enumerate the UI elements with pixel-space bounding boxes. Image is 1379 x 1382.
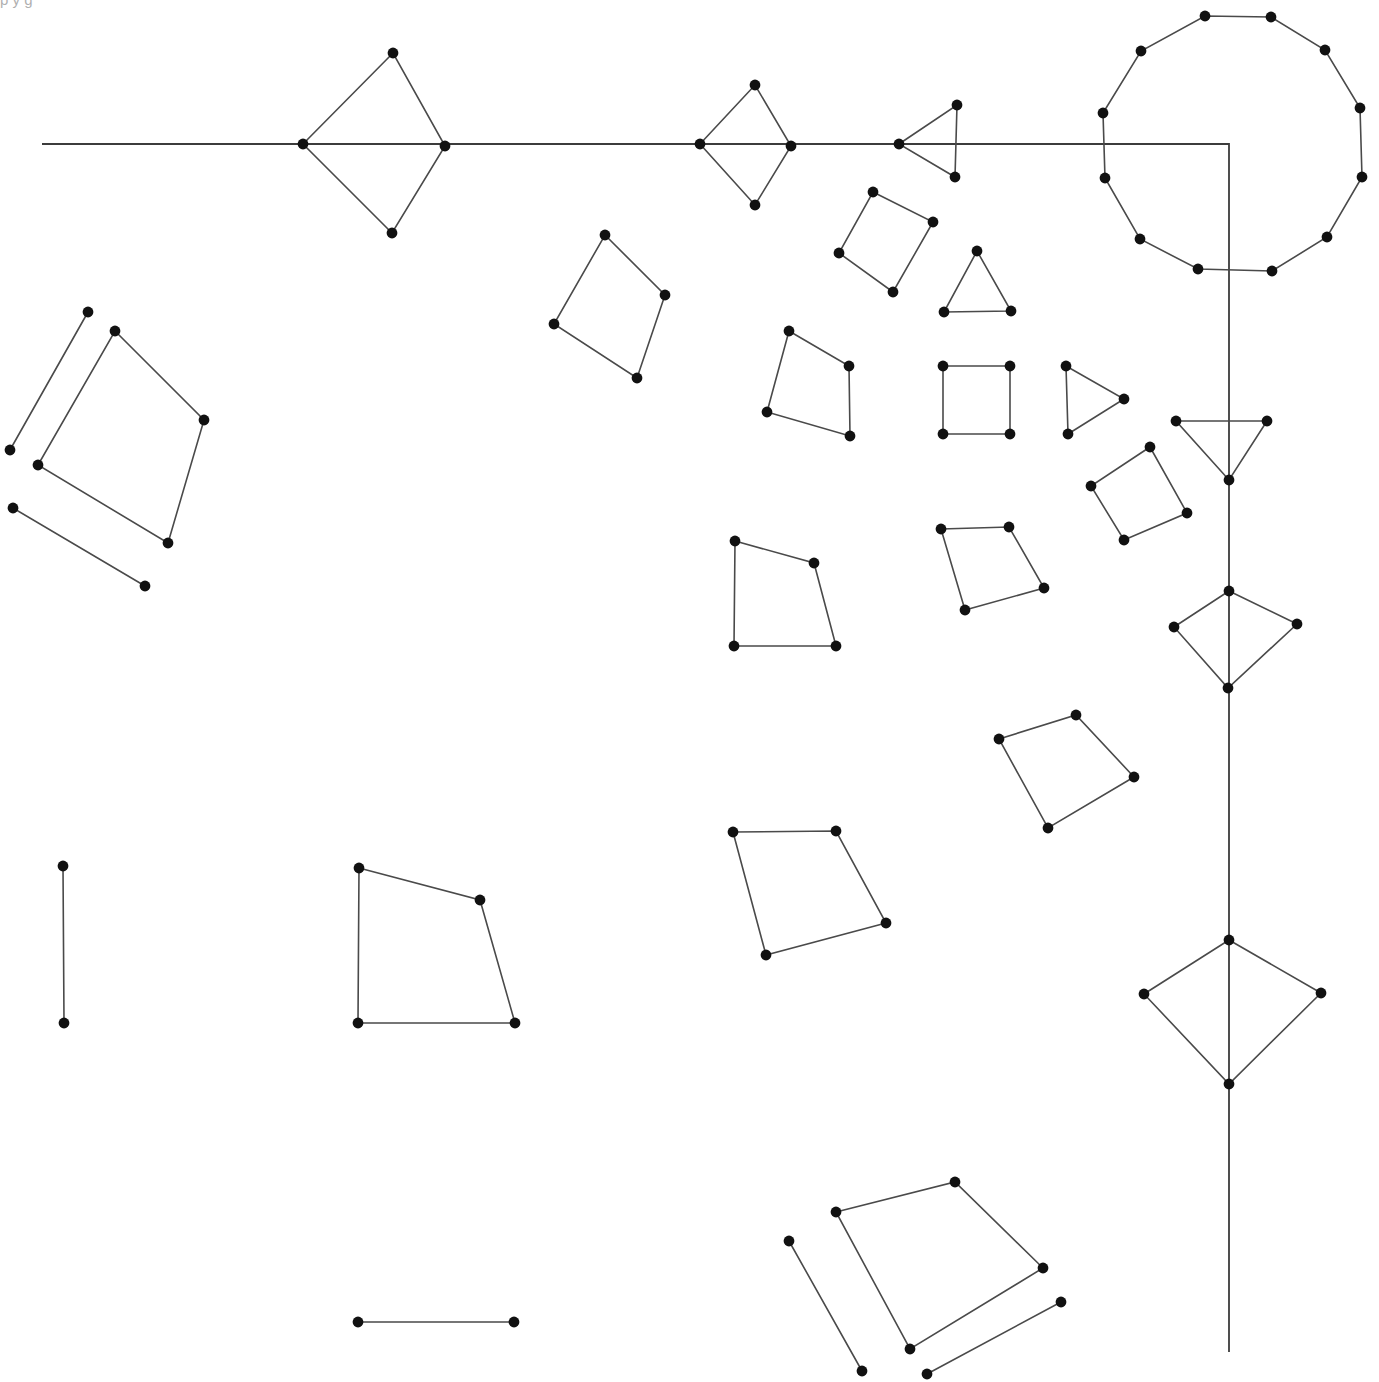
graph-node [1357,172,1368,183]
graph-node [762,407,773,418]
graph-node [834,248,845,259]
diagram-canvas: p y g [0,0,1379,1382]
graph-node [1169,622,1180,633]
graph-node [730,536,741,547]
graph-node [905,1344,916,1355]
graph-node [1129,772,1140,783]
graph-node [728,827,739,838]
graph-node [1267,266,1278,277]
graph-node [868,187,879,198]
graph-node [1119,535,1130,546]
graph-node [1136,46,1147,57]
shape-edge [10,312,88,450]
graph-node [1193,264,1204,275]
shape-edge [358,868,515,1023]
shape-edge [38,331,204,543]
graph-node [1005,361,1016,372]
graph-node [809,558,820,569]
graph-node [1098,108,1109,119]
shape-edge [13,508,145,586]
shape-edge [1144,940,1321,1084]
shape-edge [944,251,1011,312]
shape-edge [927,1302,1061,1374]
graph-node [387,228,398,239]
graph-node [59,1018,70,1029]
graph-node [1171,416,1182,427]
shape-edge [1174,591,1297,688]
graph-node [1316,988,1327,999]
graph-node [1182,508,1193,519]
graph-node [1262,416,1273,427]
graph-node [1063,429,1074,440]
graph-node [750,80,761,91]
graph-node [475,895,486,906]
graph-node [163,538,174,549]
graph-node [784,326,795,337]
shape-edge [1066,366,1124,434]
graph-node [1224,1079,1235,1090]
graph-node [1071,710,1082,721]
graph-node [952,100,963,111]
graph-node [1223,683,1234,694]
graph-node [881,918,892,929]
graph-node [5,445,16,456]
graph-node [950,172,961,183]
graph-node [1061,361,1072,372]
shape-edge [303,53,445,233]
shape-edge [767,331,850,436]
graph-node [761,950,772,961]
graph-node [750,200,761,211]
graph-node [786,141,797,152]
graph-node [660,290,671,301]
graph-node [938,429,949,440]
graph-node [729,641,740,652]
graph-node [1224,935,1235,946]
graph-node [1086,481,1097,492]
graph-node [33,460,44,471]
graph-node [1056,1297,1067,1308]
shape-edge [700,85,791,205]
shape-edge [789,1241,862,1371]
graph-node [1355,103,1366,114]
graph-node [510,1018,521,1029]
shape-edge [1091,447,1187,540]
graph-node [110,326,121,337]
graph-node [353,1317,364,1328]
graph-node [972,246,983,257]
graph-node [922,1369,933,1380]
graph-node [831,641,842,652]
graph-node [298,139,309,150]
graph-node [1004,522,1015,533]
graph-node [1119,394,1130,405]
graph-node [440,141,451,152]
graph-node [549,319,560,330]
graph-node [199,415,210,426]
graph-node [950,1177,961,1188]
shape-edge [1176,421,1267,480]
shape-edge [839,192,933,292]
graph-node [1224,586,1235,597]
graph-node [509,1317,520,1328]
graph-node [1224,475,1235,486]
graph-node [1200,11,1211,22]
graph-node [1039,583,1050,594]
shape-edge [941,527,1044,610]
graph-node [83,307,94,318]
graph-node [1139,989,1150,1000]
graph-node [845,431,856,442]
graph-node [695,139,706,150]
graph-node [784,1236,795,1247]
graph-node [1100,173,1111,184]
graph-node [58,861,69,872]
graph-node [1145,442,1156,453]
shape-edge [836,1182,1043,1349]
graph-node [1038,1263,1049,1274]
graph-node [1005,429,1016,440]
nodes-layer [5,11,1368,1380]
graph-node [1322,232,1333,243]
shape-edge [943,366,1010,434]
graph-node [960,605,971,616]
shape-edge [733,831,886,955]
axis-polyline [42,144,1229,1352]
graph-node [831,826,842,837]
